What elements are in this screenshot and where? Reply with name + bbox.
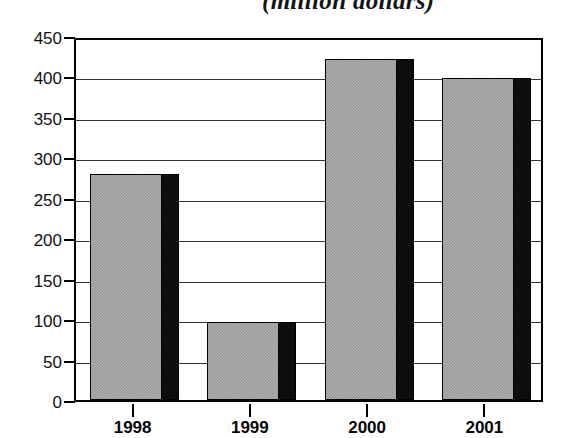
x-axis-tick-mark	[483, 404, 485, 417]
x-axis-tick-label-1998: 1998	[88, 419, 178, 436]
bar-shadow	[161, 175, 178, 399]
bars-layer	[76, 40, 541, 400]
chart-title: (million dollars)	[262, 0, 522, 13]
plot-area	[74, 38, 543, 402]
bar-group	[325, 40, 414, 400]
bar-1999	[207, 322, 296, 400]
bar-group	[207, 40, 296, 400]
bar-shadow	[513, 79, 530, 399]
x-axis-tick-mark	[249, 404, 251, 417]
bar-group	[90, 40, 179, 400]
x-axis-tick-label-2000: 2000	[322, 419, 412, 436]
bar-shadow	[396, 60, 413, 399]
bar-group	[442, 40, 531, 400]
y-axis-tick-marks	[0, 38, 80, 402]
x-axis-tick-label-2001: 2001	[439, 419, 529, 436]
bar-1998	[90, 174, 179, 400]
x-axis-tick-label-1999: 1999	[205, 419, 295, 436]
x-axis-tick-mark	[132, 404, 134, 417]
bar-2001	[442, 78, 531, 400]
bar-2000	[325, 59, 414, 400]
bar-chart-figure: (million dollars) 0501001502002503003504…	[0, 0, 567, 438]
x-axis-tick-mark	[366, 404, 368, 417]
bar-shadow	[278, 323, 295, 399]
